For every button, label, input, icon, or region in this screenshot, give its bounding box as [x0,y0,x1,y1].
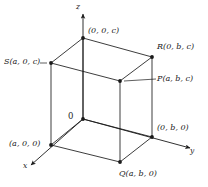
edge-R-to-P [120,57,152,81]
vertex-dot-R [150,55,154,59]
vertex-label-Q: Q(a, b, 0) [119,170,157,178]
vertex-label-y-point: (0, b, 0) [157,124,189,132]
axis-label-z: z [76,3,80,11]
axis-label-y: y [190,147,194,155]
vertex-dot-x-point [49,143,53,147]
vertex-dot-origin [81,117,85,121]
vertex-label-S: S(a, 0, c) [4,58,40,66]
coordinate-box-figure: z x y 0 (0, 0, c) S(a, 0, c) R(0, b, c) … [0,0,208,187]
edge-Q-to-x-point [51,145,120,162]
vertex-label-x-point: (a, 0, 0) [9,140,40,148]
vertex-dot-Q [118,160,122,164]
vertex-dot-S [49,61,53,65]
vertex-dot-P [118,79,122,83]
vertex-label-top-back: (0, 0, c) [88,27,119,35]
vertex-dot-top-back [81,36,85,40]
edge-P-to-S [51,63,120,81]
axis-label-x: x [23,162,27,170]
vertex-label-R: R(0, b, c) [157,43,194,51]
leader-to-P-label [124,79,156,81]
vertex-label-P: P(a, b, c) [157,75,193,83]
edge-S-to-top-back [51,38,83,63]
edge-y-point-to-Q [120,137,152,162]
origin-label: 0 [68,112,73,121]
leader-lines [40,63,156,81]
box-edges [51,38,152,162]
vertex-dots [49,36,154,164]
edge-top-back-to-R [83,38,152,57]
edge-x-point-to-origin [51,119,83,145]
edge-origin-to-y-point [83,119,152,137]
vertex-dot-y-point [150,135,154,139]
